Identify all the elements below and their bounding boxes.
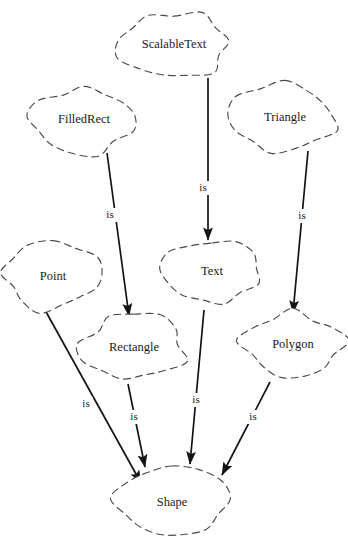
- edge-arrow: [107, 153, 129, 316]
- node-point[interactable]: Point: [1, 241, 102, 314]
- node-shape[interactable]: Shape: [110, 466, 230, 535]
- edge-label: is: [106, 208, 113, 220]
- node-label: Point: [40, 269, 67, 283]
- node-label: ScalableText: [142, 37, 207, 51]
- node-label: Text: [201, 264, 224, 278]
- node-triangle[interactable]: Triangle: [228, 80, 338, 153]
- node-label: Triangle: [264, 110, 306, 124]
- edge-label: is: [130, 410, 137, 422]
- edge-arrow: [293, 151, 308, 313]
- edge-filledrect-to-rectangle: is: [103, 153, 129, 316]
- edge-label: is: [298, 209, 305, 221]
- node-scalabletext[interactable]: ScalableText: [115, 12, 229, 76]
- edge-arrow: [128, 384, 145, 467]
- edge-label: is: [192, 393, 199, 405]
- node-label: Rectangle: [109, 340, 159, 354]
- node-label: FilledRect: [58, 112, 111, 126]
- edge-scalabletext-to-text: is: [196, 78, 210, 240]
- node-filledrect[interactable]: FilledRect: [27, 86, 136, 157]
- node-label: Shape: [157, 495, 188, 509]
- edge-polygon-to-shape: is: [222, 382, 270, 475]
- node-label: Polygon: [272, 337, 314, 351]
- edge-text-to-shape: is: [189, 310, 204, 464]
- edge-arrow: [190, 310, 204, 464]
- edge-rectangle-to-shape: is: [127, 384, 145, 467]
- edge-label: is: [82, 397, 89, 409]
- inheritance-diagram: isisisisisisis ScalableTextFilledRectTri…: [0, 0, 348, 554]
- edge-label: is: [249, 410, 256, 422]
- diagram-canvas: isisisisisisis ScalableTextFilledRectTri…: [0, 0, 348, 554]
- edge-arrow: [222, 382, 270, 475]
- node-polygon[interactable]: Polygon: [236, 308, 348, 378]
- edge-triangle-to-polygon: is: [293, 151, 309, 313]
- node-text[interactable]: Text: [160, 241, 260, 304]
- edge-label: is: [199, 181, 206, 193]
- node-rectangle[interactable]: Rectangle: [76, 313, 187, 379]
